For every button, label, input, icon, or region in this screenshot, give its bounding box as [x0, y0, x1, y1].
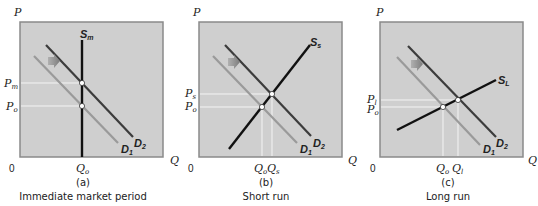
- price-new-label: Pm: [3, 77, 18, 91]
- price-old-label: Po: [366, 103, 379, 117]
- x-axis-label: Q: [170, 154, 179, 167]
- price-old-label: Po: [5, 100, 18, 114]
- panel-letter: (a): [76, 177, 90, 188]
- equilibrium-point-new: [455, 97, 460, 102]
- supply-demand-figure: P Q 0 Sm D2 D1 Pm Po Qo (a) Immediate ma…: [0, 0, 538, 206]
- panel-caption: Short run: [243, 191, 290, 202]
- equilibrium-point-old: [79, 103, 84, 108]
- y-axis-label: P: [13, 6, 22, 19]
- quantity-new-label: Qs: [267, 162, 280, 176]
- price-new-label: Ps: [184, 87, 196, 101]
- equilibrium-point-old: [259, 104, 264, 109]
- origin-label: 0: [370, 163, 376, 174]
- equilibrium-point-new: [79, 80, 84, 85]
- origin-label: 0: [9, 163, 15, 174]
- panel-letter: (b): [259, 177, 273, 188]
- panel-caption: Immediate market period: [19, 191, 147, 202]
- panel-a: P Q 0 Sm D2 D1 Pm Po Qo (a) Immediate ma…: [3, 6, 179, 202]
- panel-letter: (c): [441, 177, 454, 188]
- price-old-label: Po: [184, 100, 197, 114]
- y-axis-label: P: [375, 6, 384, 19]
- quantity-old-label: Qo: [76, 162, 89, 176]
- origin-label: 0: [188, 163, 194, 174]
- equilibrium-point-old: [440, 104, 445, 109]
- panel-caption: Long run: [426, 191, 470, 202]
- quantity-new-label: Ql: [452, 162, 463, 176]
- quantity-old-label: Qo: [254, 162, 267, 176]
- quantity-old-label: Qo: [436, 162, 449, 176]
- panel-b: P Q 0 Ss D2 D1 Ps Po Qo Qs (b) Short run: [184, 6, 357, 202]
- equilibrium-point-new: [269, 91, 274, 96]
- x-axis-label: Q: [528, 154, 537, 167]
- panel-c: P Q 0 SL D2 D1 Pl Po Qo Ql (c) Long run: [366, 6, 537, 202]
- x-axis-label: Q: [348, 154, 357, 167]
- y-axis-label: P: [192, 6, 201, 19]
